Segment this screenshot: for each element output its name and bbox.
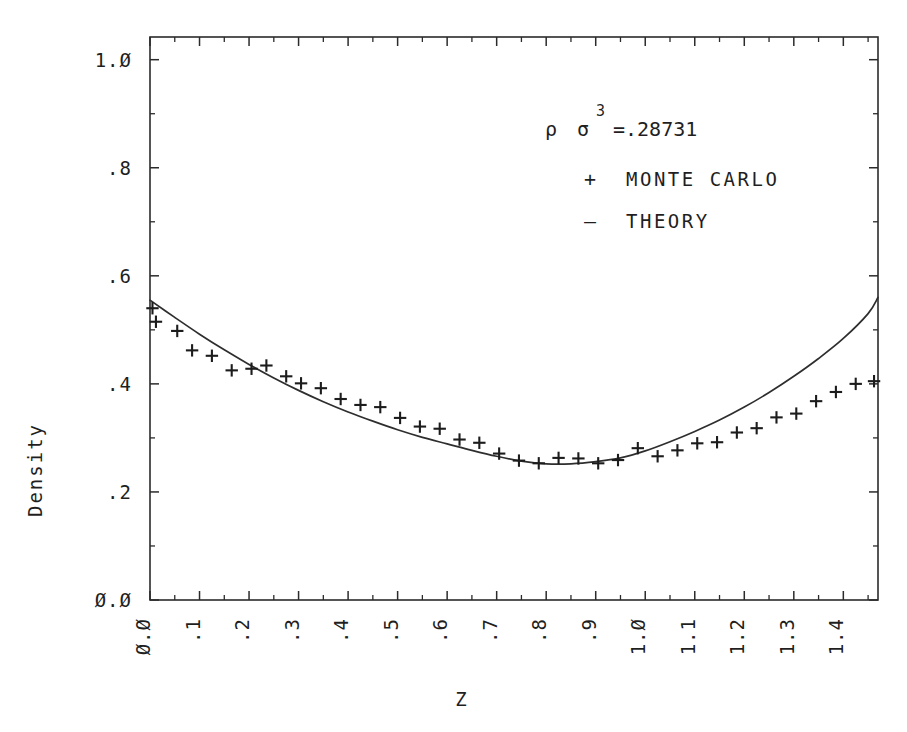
monte-carlo-point <box>295 377 307 389</box>
axis-titles: DensityZ <box>24 423 469 710</box>
density-value: =.28731 <box>613 117 697 141</box>
monte-carlo-point <box>850 378 862 390</box>
x-tick-label: .2 <box>231 618 253 643</box>
x-tick-label: .1 <box>182 618 204 643</box>
monte-carlo-point <box>790 407 802 419</box>
legend-entry: +MONTE CARLO <box>584 167 779 191</box>
x-tick-label: .3 <box>281 618 303 643</box>
x-axis-ticks <box>150 37 868 600</box>
monte-carlo-point <box>186 344 198 356</box>
legend-label: THEORY <box>626 210 710 232</box>
monte-carlo-point <box>171 325 183 337</box>
x-tick-label: 1.Ø <box>627 618 649 655</box>
x-tick-label: 1.1 <box>677 618 699 655</box>
y-tick-label: .8 <box>107 157 132 179</box>
legend-symbol: – <box>584 209 597 233</box>
theory-curve-series <box>150 297 878 464</box>
monte-carlo-point <box>513 454 525 466</box>
y-tick-label: .2 <box>107 481 132 503</box>
monte-carlo-point <box>770 411 782 423</box>
monte-carlo-point <box>334 393 346 405</box>
monte-carlo-point <box>206 350 218 362</box>
y-tick-label: Ø.Ø <box>95 589 132 611</box>
legend-label: MONTE CARLO <box>626 168 779 190</box>
x-tick-label: 1.4 <box>825 618 847 655</box>
figure-canvas: Ø.Ø.1.2.3.4.5.6.7.8.91.Ø1.11.21.31.4 Ø.Ø… <box>0 0 907 732</box>
monte-carlo-point <box>315 382 327 394</box>
x-tick-label: .7 <box>479 618 501 643</box>
monte-carlo-point <box>552 452 564 464</box>
plot-frame-rect <box>150 37 878 600</box>
x-axis-title: Z <box>455 688 468 710</box>
y-tick-label: .6 <box>107 265 132 287</box>
monte-carlo-point <box>453 433 465 445</box>
monte-carlo-point <box>473 437 485 449</box>
x-tick-label: 1.2 <box>726 618 748 655</box>
monte-carlo-point <box>280 370 292 382</box>
monte-carlo-point <box>612 454 624 466</box>
x-tick-label: .4 <box>330 618 352 643</box>
y-axis-title: Density <box>24 423 46 517</box>
monte-carlo-point <box>750 422 762 434</box>
y-tick-label: 1.Ø <box>95 49 132 71</box>
monte-carlo-point <box>651 450 663 462</box>
density-vs-z-plot: Ø.Ø.1.2.3.4.5.6.7.8.91.Ø1.11.21.31.4 Ø.Ø… <box>0 0 907 732</box>
rho-symbol: ρ <box>545 117 557 141</box>
x-tick-label: .8 <box>528 618 550 643</box>
monte-carlo-point <box>711 436 723 448</box>
legend-symbol: + <box>584 167 596 191</box>
monte-carlo-point <box>394 412 406 424</box>
monte-carlo-point <box>260 359 272 371</box>
x-tick-label: .6 <box>429 618 451 643</box>
monte-carlo-point <box>226 364 238 376</box>
y-axis-ticks <box>150 60 878 600</box>
monte-carlo-point <box>533 457 545 469</box>
sigma-symbol: σ <box>577 117 589 141</box>
sigma-exponent: 3 <box>596 102 605 120</box>
monte-carlo-point <box>810 395 822 407</box>
density-annotation: ρσ3=.28731 <box>545 102 697 141</box>
x-tick-label: .5 <box>380 618 402 643</box>
monte-carlo-point <box>671 444 683 456</box>
y-axis-tick-labels: Ø.Ø.2.4.6.81.Ø <box>95 49 132 611</box>
monte-carlo-point <box>830 386 842 398</box>
monte-carlo-point <box>731 426 743 438</box>
theory-curve-line <box>150 297 878 464</box>
x-tick-label: Ø.Ø <box>132 618 154 655</box>
monte-carlo-point <box>414 420 426 432</box>
monte-carlo-point <box>592 457 604 469</box>
monte-carlo-point <box>354 399 366 411</box>
monte-carlo-point <box>374 401 386 413</box>
plot-frame <box>150 37 878 600</box>
x-tick-label: .9 <box>578 618 600 643</box>
monte-carlo-point <box>245 363 257 375</box>
monte-carlo-point <box>434 423 446 435</box>
y-tick-label: .4 <box>107 373 132 395</box>
legend: +MONTE CARLO–THEORY <box>584 167 779 233</box>
x-tick-label: 1.3 <box>776 618 798 655</box>
x-axis-tick-labels: Ø.Ø.1.2.3.4.5.6.7.8.91.Ø1.11.21.31.4 <box>132 618 847 655</box>
monte-carlo-series <box>146 302 880 469</box>
legend-entry: –THEORY <box>584 209 710 233</box>
monte-carlo-point <box>691 437 703 449</box>
monte-carlo-point <box>150 316 162 328</box>
